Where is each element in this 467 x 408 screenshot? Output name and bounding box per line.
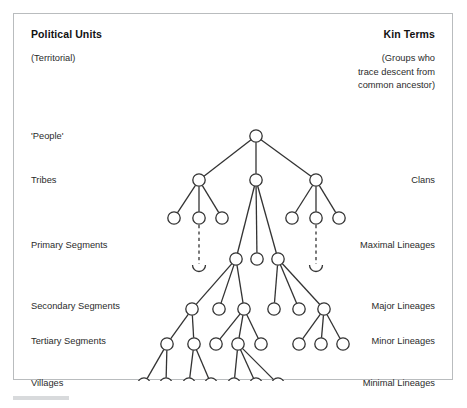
tree-node-tertiary xyxy=(210,338,222,350)
tree-node-villages xyxy=(250,378,262,381)
row-label-tribes: Tribes xyxy=(31,175,57,185)
row-label-maximal-lineages: Maximal Lineages xyxy=(360,240,435,250)
tree-node-tertiary xyxy=(188,338,200,350)
row-label-tertiary-segments: Tertiary Segments xyxy=(31,336,106,346)
tree-edge xyxy=(274,265,277,303)
tree-node-secondary xyxy=(213,303,225,315)
row-label-minor-lineages: Minor Lineages xyxy=(371,336,435,346)
subtitle-territorial: (Territorial) xyxy=(31,52,75,66)
tree-node-layer xyxy=(138,130,349,381)
tree-edge xyxy=(327,314,340,338)
tree-edge xyxy=(239,315,243,338)
tree-node-tribes xyxy=(250,174,262,186)
tree-dashed-connector-layer xyxy=(193,225,323,272)
continuation-arc xyxy=(193,265,206,272)
column-heading-political-units: Political Units xyxy=(31,28,102,40)
tree-node-tribes xyxy=(310,174,322,186)
column-heading-kin-terms: Kin Terms xyxy=(384,28,435,40)
tree-node-primary xyxy=(216,212,228,224)
tree-node-secondary xyxy=(238,303,250,315)
tree-edge xyxy=(190,350,193,378)
tree-edge xyxy=(196,350,208,379)
tree-edge xyxy=(247,315,259,339)
tree-edge xyxy=(241,350,254,379)
tree-edge xyxy=(202,185,219,212)
row-label-major-lineages: Major Lineages xyxy=(371,301,435,311)
tree-node-maximal xyxy=(251,253,263,265)
tree-node-villages xyxy=(205,378,217,381)
continuation-arc xyxy=(310,265,323,272)
tree-node-primary xyxy=(333,212,345,224)
figure-frame: Political Units Kin Terms (Territorial) … xyxy=(13,13,453,380)
tree-edge xyxy=(256,186,257,253)
tree-node-villages xyxy=(228,378,240,381)
tree-edge xyxy=(147,349,164,378)
tree-edge xyxy=(192,315,193,338)
tree-edge xyxy=(282,264,320,305)
tree-node-villages xyxy=(183,378,195,381)
tree-edge xyxy=(171,314,189,339)
tree-node-people xyxy=(250,130,262,142)
tree-edge xyxy=(280,265,296,304)
row-label-primary-segments: Primary Segments xyxy=(31,240,107,250)
tree-node-tribes xyxy=(193,174,205,186)
tree-node-maximal xyxy=(272,253,284,265)
tree-node-villages xyxy=(160,378,172,381)
tree-edge xyxy=(177,185,195,213)
tree-edge xyxy=(295,185,312,213)
tree-edge xyxy=(204,140,251,176)
tree-node-secondary xyxy=(318,303,330,315)
tree-edge xyxy=(235,350,238,378)
bottom-left-marker xyxy=(13,396,69,400)
tree-node-secondary xyxy=(186,303,198,315)
tree-node-tertiary xyxy=(255,338,267,350)
tree-node-tertiary xyxy=(315,338,327,350)
tree-node-primary xyxy=(193,212,205,224)
tree-edge-layer xyxy=(147,140,340,380)
tree-edge xyxy=(220,314,240,339)
tree-edge xyxy=(261,140,311,177)
tree-node-villages xyxy=(138,378,150,381)
tree-edge xyxy=(166,350,167,378)
tree-node-primary xyxy=(310,212,322,224)
tree-edge xyxy=(319,185,336,212)
tree-edge xyxy=(221,265,234,303)
row-label-secondary-segments: Secondary Segments xyxy=(31,301,120,311)
tree-edge xyxy=(238,186,255,253)
tree-edge xyxy=(242,348,273,379)
tree-node-villages xyxy=(272,378,284,381)
row-label-villages: Villages xyxy=(31,378,63,388)
tree-edge xyxy=(258,186,277,253)
row-label-minimal-lineages: Minimal Lineages xyxy=(363,378,435,388)
subtitle-groups-descent: (Groups who trace descent from common an… xyxy=(358,52,435,93)
tree-node-tertiary xyxy=(293,338,305,350)
tree-node-tertiary xyxy=(337,338,349,350)
tree-edge xyxy=(196,264,232,305)
tree-node-secondary xyxy=(268,303,280,315)
tree-node-primary xyxy=(286,212,298,224)
tree-node-tertiary xyxy=(161,338,173,350)
tree-node-secondary xyxy=(293,303,305,315)
tree-node-tertiary xyxy=(232,338,244,350)
tree-edge xyxy=(237,265,243,303)
row-label-people: 'People' xyxy=(31,131,64,141)
tree-node-maximal xyxy=(230,253,242,265)
tree-edge xyxy=(303,314,321,339)
tree-node-primary xyxy=(168,212,180,224)
row-label-clans: Clans xyxy=(411,175,435,185)
tree-edge xyxy=(322,315,324,338)
